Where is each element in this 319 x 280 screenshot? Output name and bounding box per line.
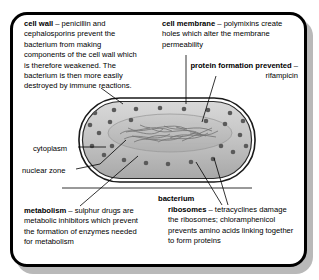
annotation-protein-formation-body: rifampicin — [266, 71, 299, 80]
annotation-protein-formation-dash: – — [292, 61, 298, 70]
annotation-metabolism: metabolism – sulphur drugs are metabolic… — [24, 206, 142, 248]
label-bacterium: bacterium — [158, 194, 194, 204]
label-cytoplasm: cytoplasm — [33, 144, 67, 154]
annotation-metabolism-dash: – — [66, 206, 74, 215]
annotation-cell-membrane-term: cell membrane — [162, 19, 215, 28]
annotation-protein-formation: protein formation prevented – rifampicin — [158, 61, 298, 82]
annotation-cell-membrane-dash: – — [215, 19, 223, 28]
annotation-cell-membrane: cell membrane – polymixins create holes … — [162, 19, 298, 50]
annotation-cell-wall-dash: – — [53, 19, 61, 28]
annotation-metabolism-term: metabolism — [24, 206, 66, 215]
annotation-ribosomes: ribosomes – tetracyclines damage the rib… — [168, 205, 298, 247]
annotation-ribosomes-term: ribosomes — [168, 205, 206, 214]
annotation-cell-wall: cell wall – penicillin and cephalosporin… — [24, 19, 144, 92]
annotation-protein-formation-term: protein formation prevented — [190, 61, 291, 70]
label-nuclear-zone: nuclear zone — [22, 166, 65, 176]
annotation-cell-wall-term: cell wall — [24, 19, 53, 28]
annotation-ribosomes-dash: – — [206, 205, 214, 214]
figure-canvas: cell wall – penicillin and cephalosporin… — [0, 0, 319, 280]
annotation-cell-wall-body: penicillin and cephalosporins prevent th… — [24, 19, 137, 90]
